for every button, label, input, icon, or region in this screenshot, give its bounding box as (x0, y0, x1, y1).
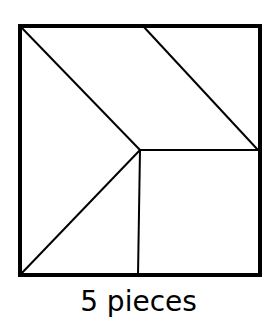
dissected-square-diagram (0, 0, 277, 290)
top-diagonal-line (143, 26, 258, 150)
caption-label: 5 pieces (0, 284, 277, 320)
bottom-diagonal-line (20, 150, 140, 275)
vertical-line (138, 150, 140, 275)
left-diagonal-line (20, 26, 140, 150)
